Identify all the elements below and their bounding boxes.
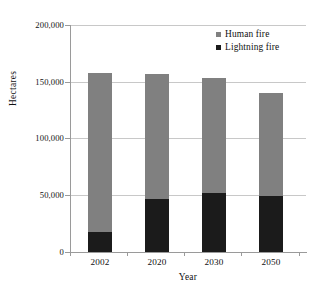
x-tick-mark-3 <box>241 252 242 256</box>
bar-segment-lightning-fire-2020[interactable] <box>145 199 169 252</box>
y-axis-title: Hectares <box>8 71 18 106</box>
bar-group-2002[interactable] <box>88 73 112 252</box>
y-tick-label-200000: 200,000 <box>6 21 64 30</box>
y-tick-mark-150000 <box>65 82 70 83</box>
bar-segment-human-fire-2030[interactable] <box>202 78 226 193</box>
y-tick-label-0: 0 <box>6 248 64 257</box>
bar-segment-human-fire-2002[interactable] <box>88 73 112 232</box>
y-axis-line <box>70 25 71 253</box>
gridline-200000 <box>70 25 306 26</box>
bar-segment-human-fire-2050[interactable] <box>259 93 283 196</box>
y-tick-label-50000: 50,000 <box>6 191 64 200</box>
x-axis-title: Year <box>70 272 306 282</box>
x-axis-line <box>70 252 307 253</box>
x-tick-label-2030: 2030 <box>187 257 241 268</box>
y-tick-label-100000: 100,000 <box>6 134 64 143</box>
y-tick-mark-200000 <box>65 25 70 26</box>
x-tick-mark-start <box>70 252 71 256</box>
plot-area <box>70 25 306 252</box>
x-tick-mark-2 <box>184 252 185 256</box>
bar-group-2020[interactable] <box>145 74 169 252</box>
bar-group-2050[interactable] <box>259 93 283 252</box>
bar-segment-lightning-fire-2050[interactable] <box>259 196 283 252</box>
legend-label-human-fire: Human fire <box>225 29 269 39</box>
x-tick-label-2050: 2050 <box>244 257 298 268</box>
y-tick-mark-50000 <box>65 195 70 196</box>
y-axis-tick-labels: 200,000 150,000 100,000 50,000 0 <box>0 0 64 292</box>
bar-group-2030[interactable] <box>202 78 226 252</box>
legend-label-lightning-fire: Lightning fire <box>225 42 279 52</box>
bar-segment-human-fire-2020[interactable] <box>145 74 169 199</box>
stacked-bar-chart: 200,000 150,000 100,000 50,000 0 Hectare… <box>0 0 320 292</box>
chart-legend: Human fire Lightning fire <box>216 28 279 54</box>
bar-segment-lightning-fire-2002[interactable] <box>88 232 112 252</box>
legend-item-human-fire[interactable]: Human fire <box>216 28 279 40</box>
x-tick-mark-end <box>299 252 300 256</box>
x-tick-label-2002: 2002 <box>73 257 127 268</box>
x-tick-label-2020: 2020 <box>130 257 184 268</box>
legend-item-lightning-fire[interactable]: Lightning fire <box>216 41 279 53</box>
legend-swatch-square-icon-human-fire <box>216 32 221 37</box>
y-tick-mark-100000 <box>65 138 70 139</box>
x-tick-mark-1 <box>127 252 128 256</box>
bar-segment-lightning-fire-2030[interactable] <box>202 193 226 252</box>
legend-swatch-square-icon-lightning-fire <box>216 45 221 50</box>
